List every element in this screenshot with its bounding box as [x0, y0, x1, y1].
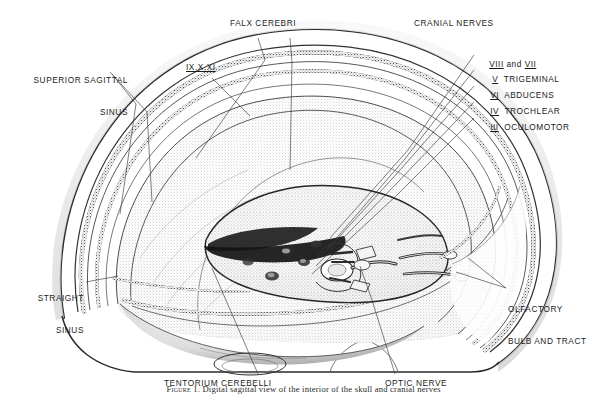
- label-olfactory-line1: OLFACTORY: [508, 304, 587, 315]
- label-straight-sinus: STRAIGHT SINUS: [8, 272, 84, 356]
- figure-caption-number: Figure 1.: [167, 384, 201, 394]
- label-cranial-nerves-heading: CRANIAL NERVES: [414, 18, 494, 29]
- label-straight-sinus-line2: SINUS: [8, 325, 84, 336]
- label-superior-sagittal-sinus: SUPERIOR SAGITTAL SINUS: [6, 54, 128, 138]
- anatomical-figure: SUPERIOR SAGITTAL SINUS FALX CEREBRI IX,…: [0, 0, 598, 404]
- label-falx-cerebri: FALX CEREBRI: [230, 18, 296, 29]
- label-superior-sagittal-sinus-line2: SINUS: [6, 107, 128, 118]
- cranial-nerve-name: OCULOMOTOR: [504, 122, 569, 132]
- label-superior-sagittal-sinus-line1: SUPERIOR SAGITTAL: [6, 75, 128, 86]
- label-ix-x-xi: IX,X,XI: [186, 62, 216, 73]
- label-olfactory-line2: BULB AND TRACT: [508, 336, 587, 347]
- cranial-nerve-numeral: III: [490, 122, 498, 132]
- figure-caption: Figure 1. Digital sagittal view of the i…: [0, 374, 598, 404]
- figure-caption-text: Digital sagittal view of the interior of…: [202, 384, 440, 394]
- label-olfactory-bulb-and-tract: OLFACTORY BULB AND TRACT: [508, 283, 587, 367]
- label-straight-sinus-line1: STRAIGHT: [8, 293, 84, 304]
- cranial-nerve-row-oculomotor: III OCULOMOTOR: [479, 112, 570, 142]
